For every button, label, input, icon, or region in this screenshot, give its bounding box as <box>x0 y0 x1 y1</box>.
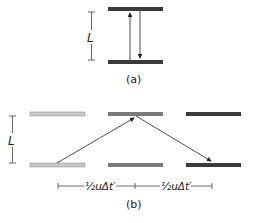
light-path-diagonal-up <box>57 118 134 163</box>
length-label: L <box>87 31 94 45</box>
caption-a: (a) <box>126 73 141 86</box>
top-mirror <box>108 7 163 11</box>
mirror-bottom-2 <box>108 163 163 167</box>
mirror-top-1 <box>30 112 85 116</box>
mirror-bottom-3 <box>186 163 241 167</box>
distance-label-2: ½uΔt′ <box>161 180 192 192</box>
distance-label-1: ½uΔt′ <box>85 180 116 192</box>
mirror-top-3 <box>186 112 241 116</box>
light-clock-diagram: L (a) L ½uΔt′ ½uΔt′ (b) <box>0 0 254 223</box>
panel-a: L (a) <box>87 7 163 86</box>
bottom-mirror <box>108 60 163 64</box>
length-label-b: L <box>8 134 15 148</box>
caption-b: (b) <box>126 198 142 211</box>
light-path-diagonal-down <box>136 116 211 161</box>
panel-b: L ½uΔt′ ½uΔt′ (b) <box>8 112 241 211</box>
mirror-bottom-1 <box>30 163 85 167</box>
mirror-top-2 <box>108 112 163 116</box>
